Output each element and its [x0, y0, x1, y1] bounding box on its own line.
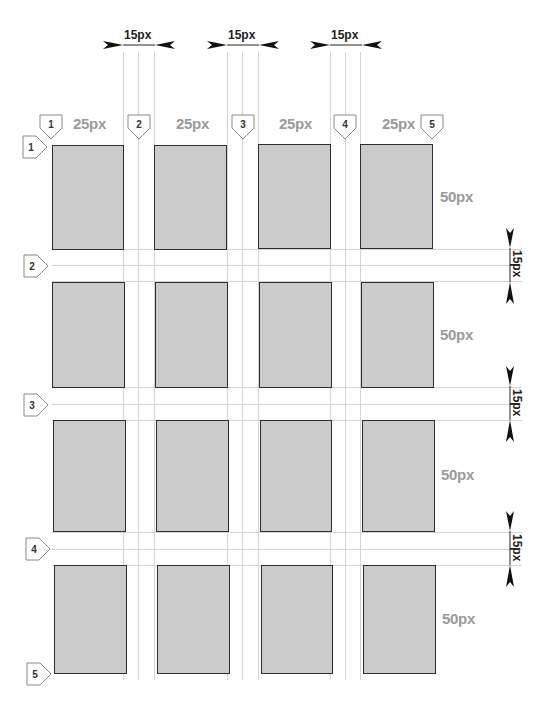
grid-cell-r1-c3	[258, 144, 331, 249]
row-gutter-4-top-guide	[52, 532, 522, 533]
row-gutter-2-label: 15px	[510, 250, 524, 277]
grid-cell-r3-c1	[53, 420, 126, 532]
column-width-label-1: 25px	[73, 115, 106, 132]
svg-text:4: 4	[342, 119, 348, 130]
row-gutter-3-label: 15px	[510, 389, 524, 416]
row-height-label-2: 50px	[440, 326, 473, 343]
column-gutter-2-label: 15px	[124, 28, 151, 42]
row-line-4-guide	[52, 549, 522, 550]
svg-text:2: 2	[29, 261, 35, 272]
grid-cell-r1-c4	[360, 144, 433, 249]
grid-cell-r2-c4	[361, 282, 434, 388]
row-marker-5-icon: 5	[26, 662, 52, 686]
svg-text:1: 1	[48, 119, 54, 130]
column-line-4-guide	[345, 52, 346, 680]
column-gutter-3-label: 15px	[228, 28, 255, 42]
column-marker-2-icon: 2	[127, 114, 151, 140]
column-width-label-4: 25px	[382, 115, 415, 132]
row-marker-1-icon: 1	[22, 135, 48, 159]
svg-text:1: 1	[28, 142, 34, 153]
grid-cell-r4-c4	[363, 565, 436, 674]
row-marker-3-icon: 3	[23, 393, 49, 417]
grid-cell-r1-c1	[52, 145, 124, 250]
grid-cell-r4-c3	[261, 565, 333, 674]
column-marker-4-icon: 4	[333, 114, 357, 140]
column-marker-3-icon: 3	[231, 114, 255, 140]
grid-cell-r3-c2	[156, 420, 229, 532]
row-gutter-4-label: 15px	[510, 534, 524, 561]
grid-cell-r1-c2	[154, 145, 227, 250]
column-width-label-2: 25px	[176, 115, 209, 132]
column-width-label-3: 25px	[279, 115, 312, 132]
column-gutter-4-label: 15px	[331, 28, 358, 42]
svg-text:2: 2	[136, 119, 142, 130]
svg-text:4: 4	[31, 544, 37, 555]
column-line-3-guide	[242, 52, 243, 680]
column-line-2-guide	[138, 52, 139, 680]
grid-cell-r4-c1	[54, 565, 127, 674]
svg-text:5: 5	[32, 669, 38, 680]
row-height-label-3: 50px	[441, 466, 474, 483]
row-marker-2-icon: 2	[23, 254, 49, 278]
svg-text:3: 3	[240, 119, 246, 130]
grid-cell-r4-c2	[157, 565, 230, 674]
row-line-2-guide	[52, 265, 522, 266]
grid-cell-r3-c3	[260, 420, 332, 532]
grid-cell-r2-c2	[155, 282, 228, 388]
grid-cell-r3-c4	[362, 420, 435, 532]
row-height-label-1: 50px	[440, 188, 473, 205]
svg-text:3: 3	[29, 400, 35, 411]
svg-text:5: 5	[429, 119, 435, 130]
row-line-3-guide	[52, 404, 522, 405]
grid-cell-r2-c1	[52, 282, 125, 388]
grid-cell-r2-c3	[259, 282, 332, 388]
row-height-label-4: 50px	[442, 610, 475, 627]
row-marker-4-icon: 4	[25, 537, 51, 561]
column-marker-5-icon: 5	[420, 114, 444, 140]
